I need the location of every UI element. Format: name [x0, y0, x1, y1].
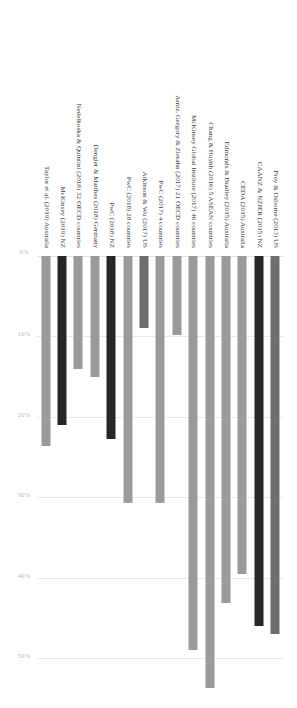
gridline-50pct	[37, 658, 283, 659]
bar-11	[90, 256, 99, 377]
bar-2	[238, 256, 247, 574]
bar-12	[74, 256, 83, 369]
bar-9	[123, 256, 132, 503]
category-label-7: PwC (2017) 4 countries	[156, 180, 165, 248]
bar-14	[41, 256, 50, 446]
bar-5	[188, 256, 197, 650]
bar-1	[254, 256, 263, 626]
bar-10	[106, 256, 115, 439]
category-label-14: Taylor et al. (2019) Australia	[41, 166, 50, 248]
bar-13	[57, 256, 66, 425]
tick-label-40pct: 40%	[17, 571, 30, 578]
category-labels-group: Frey & Osborne (2013) USCAANZ & NZIER (2…	[37, 0, 283, 252]
bar-6	[172, 256, 181, 335]
category-label-1: CAANZ & NZIER (2015) NZ	[254, 162, 263, 248]
bar-0	[270, 256, 279, 634]
category-label-10: PwC (2018) NZ	[106, 202, 115, 248]
tick-label-20pct: 20%	[17, 411, 30, 418]
category-label-3: Edmonds & Bradley (2015) Australia	[221, 142, 230, 248]
category-label-4: Chang & Huynh (2016) 5 ASEAN countries	[205, 122, 214, 248]
category-label-9: PwC (2018) 28 countries	[123, 177, 132, 248]
bar-8	[139, 256, 148, 328]
bar-4	[205, 256, 214, 688]
category-label-0: Frey & Osborne (2013) US	[270, 170, 279, 248]
tick-label-10pct: 10%	[17, 330, 30, 337]
bar-3	[221, 256, 230, 603]
tick-label-0pct: 0%	[19, 248, 28, 255]
tick-label-30pct: 30%	[17, 491, 30, 498]
category-label-12: Nedelkoska & Quintini (2018) 32 OECD cou…	[74, 103, 83, 248]
category-label-11: Dengler & Matthes (2018) Germany	[90, 144, 99, 248]
bar-chart-figure: 0%10%20%30%40%50% Frey & Osborne (2013) …	[0, 0, 297, 708]
category-label-8: Atkinson & Wu (2017) US	[139, 172, 148, 248]
category-label-5: McKinsey Global Institute (2017) 46 coun…	[188, 115, 197, 248]
bar-7	[156, 256, 165, 503]
category-label-6: Arntz, Gregory & Zierahn (2017) 21 OECD …	[172, 95, 181, 248]
rotated-chart-canvas: 0%10%20%30%40%50% Frey & Osborne (2013) …	[0, 0, 297, 708]
plot-wrapper: 0%10%20%30%40%50% Frey & Osborne (2013) …	[0, 0, 297, 708]
bars-group	[37, 256, 283, 658]
category-label-2: CEDA (2015) Australia	[238, 181, 247, 248]
category-label-13: McKinsey (2019) NZ	[57, 187, 66, 248]
tick-label-50pct: 50%	[17, 652, 30, 659]
